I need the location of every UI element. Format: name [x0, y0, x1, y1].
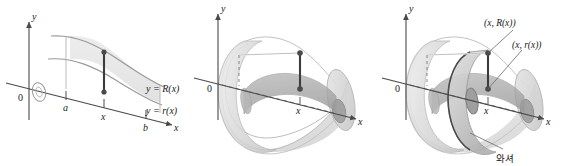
axis-of-revolution-ellipse — [30, 81, 47, 103]
tick-b-label: b — [143, 122, 148, 133]
tick-x-label-panel2: x — [295, 105, 301, 116]
panel-washer-3d: x y 0 x (x, R(x)) (x, r(x)) 와셔 — [382, 3, 551, 164]
y-axis-label-panel1: y — [31, 11, 37, 22]
x-axis-label-panel1: x — [173, 122, 179, 133]
point-outer-dot-panel2 — [297, 50, 303, 56]
panel-solid-3d: x y 0 x — [194, 3, 363, 154]
leader-point-outer — [488, 30, 513, 53]
tick-x-label: x — [100, 111, 106, 122]
washer-method-figure: y x 0 a x b y = R(x) y = r(x) — [0, 0, 564, 166]
point-outer-dot-panel1 — [101, 49, 106, 54]
y-axis-label-panel2: y — [220, 3, 226, 14]
origin-label-panel3: 0 — [395, 83, 400, 94]
curve-inner-label: y = r(x) — [145, 105, 178, 117]
tick-a-label: a — [63, 102, 68, 113]
origin-label-panel2: 0 — [207, 83, 212, 94]
point-inner-dot-panel2 — [297, 86, 303, 92]
point-inner-dot-panel1 — [101, 89, 106, 94]
tick-x-label-panel3: x — [483, 105, 489, 116]
y-axis-label-panel3: y — [408, 3, 414, 14]
washer-label: 와셔 — [496, 153, 514, 164]
panel-region-2d: y x 0 a x b y = R(x) y = r(x) — [6, 11, 180, 133]
point-outer-label: (x, R(x)) — [484, 18, 516, 29]
origin-label-panel1: 0 — [18, 92, 23, 103]
x-axis-label-panel2: x — [357, 116, 363, 127]
x-axis-label-panel3: x — [545, 116, 551, 127]
curve-outer-label: y = R(x) — [145, 83, 180, 95]
point-inner-label: (x, r(x)) — [512, 40, 542, 51]
